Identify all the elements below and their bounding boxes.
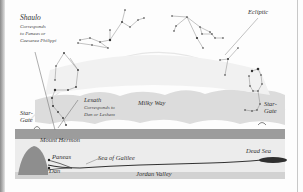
lesath-label: Lesath [84,97,101,104]
mount-hermon-label: Mount Hermon [40,137,80,144]
shaulo-desc-line3: Caesarea Philippi [20,38,56,43]
lesath-desc-line1: Corresponds to [84,105,115,110]
constellation-top-center [172,16,223,48]
paneas-marker [48,159,50,161]
dead-sea-label: Dead Sea [246,148,271,155]
jordan-valley-label: Jordan Valley [136,171,172,178]
shaulo-label: Shaulo [20,14,41,22]
star-gate-right-marker [258,123,266,126]
lesath-desc-line2: Dan or Leshem [84,112,115,117]
top-left-stars [77,9,145,49]
sea-of-galilee-label: Sea of Galilee [98,155,135,162]
milky-way-haze [45,55,270,95]
dan-label: Dan [49,168,60,175]
paneas-label: Paneas [52,154,71,161]
ecliptic-pointer [225,18,258,55]
top-center-stars [171,15,224,49]
milky-way-label: Milky Way [138,100,165,107]
shaulo-desc-line1: Corresponds [20,24,46,29]
dead-sea-shape [259,157,287,163]
constellation-top-left [78,10,144,48]
star-gate-left-marker [34,127,40,130]
diagram-page: Shaulo Corresponds to Paneas or Caesarea… [0,0,303,192]
star-gate-right-label-line2: Gate [264,108,277,115]
ecliptic-label: Ecliptic [248,9,268,16]
shaulo-desc-line2: to Paneas or [20,31,46,36]
star-gate-left-label-line2: Gate [20,117,33,124]
